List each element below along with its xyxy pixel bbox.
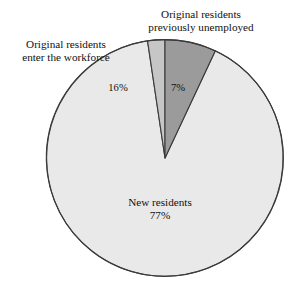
slice-label-previously-unemployed-line-1: Original residents <box>139 8 263 21</box>
slice-label-enter-workforce-line-1: Original residents <box>4 38 128 51</box>
slice-label-new-residents-line-1: New residents <box>108 196 212 209</box>
slice-value-previously-unemployed: 7% <box>165 82 191 93</box>
pie-chart-figure: Original residents previously unemployed… <box>0 0 297 292</box>
slice-value-enter-workforce: 16% <box>104 82 132 93</box>
slice-label-previously-unemployed-line-2: previously unemployed <box>139 21 263 34</box>
slice-label-enter-workforce-line-2: enter the workforce <box>4 51 128 64</box>
slice-label-previously-unemployed: Original residents previously unemployed <box>139 8 263 34</box>
slice-label-new-residents: New residents 77% <box>108 196 212 222</box>
slice-label-enter-workforce: Original residents enter the workforce <box>4 38 128 64</box>
slice-label-new-residents-value: 77% <box>108 209 212 222</box>
